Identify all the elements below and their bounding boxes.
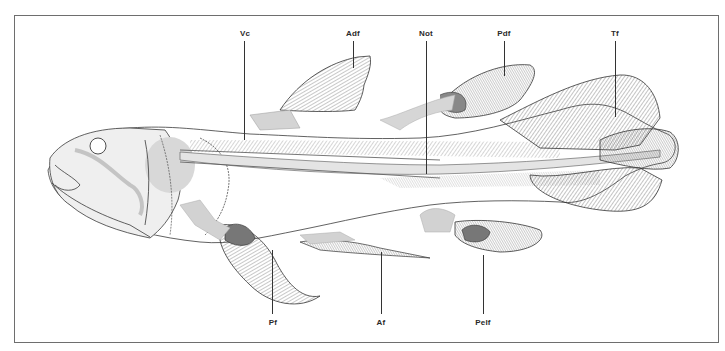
- pectoral-fin: [180, 200, 320, 304]
- label-pelvic-fin: Pelf: [475, 318, 490, 327]
- leader-line-af: [381, 252, 382, 314]
- label-vertebral-column: Vc: [240, 29, 250, 38]
- leader-line-vc: [244, 41, 245, 140]
- label-notochord: Not: [419, 29, 433, 38]
- leader-line-tf: [615, 41, 616, 117]
- label-tail-fin: Tf: [611, 29, 619, 38]
- leader-line-adf: [353, 41, 354, 68]
- label-pectoral-fin: Pf: [269, 318, 277, 327]
- leader-line-not: [426, 41, 427, 174]
- leader-line-pelf: [483, 255, 484, 314]
- leader-line-pf: [272, 250, 273, 314]
- label-anterior-dorsal-fin: Adf: [346, 29, 360, 38]
- leader-line-pdf: [504, 41, 505, 76]
- pelvic-fin: [420, 209, 542, 252]
- label-posterior-dorsal-fin: Pdf: [497, 29, 511, 38]
- coelacanth-illustration: [0, 0, 725, 351]
- label-anal-fin: Af: [377, 318, 386, 327]
- anal-fin: [300, 232, 430, 258]
